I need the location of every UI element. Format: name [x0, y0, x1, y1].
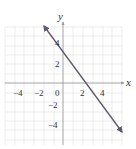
grid: [5, 27, 122, 145]
x-tick-label: 4: [100, 88, 105, 98]
y-tick-label: 4: [55, 38, 60, 48]
coordinate-plane: y x −4 −2 0 2 4 4 2 −2 −4: [0, 0, 136, 149]
x-tick-label: −2: [34, 88, 44, 98]
y-axis-label: y: [57, 10, 63, 22]
y-tick-label: −4: [48, 120, 58, 130]
x-tick-label: 2: [80, 88, 85, 98]
x-tick-label: 0: [55, 88, 60, 98]
x-tick-label: −4: [13, 88, 23, 98]
x-axis-label: x: [125, 76, 131, 88]
y-tick-label: −2: [48, 100, 58, 110]
y-tick-label: 2: [55, 59, 60, 69]
